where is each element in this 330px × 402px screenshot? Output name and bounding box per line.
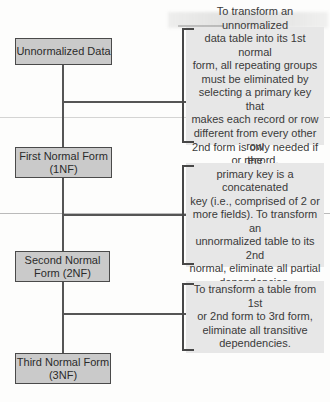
trunk-line-segment: [62, 282, 64, 353]
node-first-normal-form: First Normal Form (1NF): [15, 147, 112, 178]
connector-line-1nf-callout: [63, 101, 186, 103]
callout-left-bracket: [182, 28, 194, 143]
callout-1nf-description: To transform an unnormalized data table …: [186, 27, 324, 145]
callout-left-bracket: [182, 283, 194, 351]
node-second-normal-form: Second Normal Form (2NF): [15, 251, 110, 282]
connector-line-3nf-callout: [63, 313, 186, 315]
node-third-normal-form: Third Normal Form (3NF): [15, 353, 111, 384]
callout-2nf-description: 2nd form is only needed if the primary k…: [186, 163, 324, 267]
callout-left-bracket: [182, 165, 194, 265]
callout-3nf-description: To transform a table from 1st or 2nd for…: [186, 281, 324, 353]
connector-line-2nf-callout: [63, 214, 186, 216]
normalization-flowchart-diagram: Unnormalized Data First Normal Form (1NF…: [0, 0, 330, 402]
node-unnormalized-data: Unnormalized Data: [15, 38, 112, 65]
trunk-line-segment: [62, 65, 64, 147]
